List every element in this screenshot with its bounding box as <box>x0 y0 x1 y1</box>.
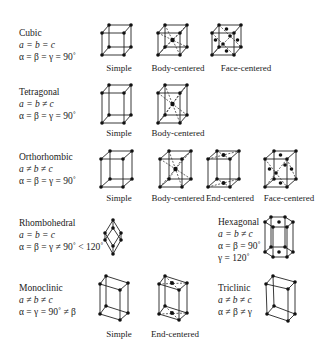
orthorhombic-body-centered-icon <box>158 149 193 191</box>
angles-relation: α = γ = 90˚ ≠ β <box>19 306 76 318</box>
caption: Simple <box>99 63 139 73</box>
angles-relation: α = β = γ = 90˚ <box>19 51 76 63</box>
lengths-relation: a ≠ b ≠ c <box>19 163 76 175</box>
lengths-relation: a ≠ b ≠ c <box>218 294 252 306</box>
caption: End-centered <box>200 193 260 203</box>
system-name: Tetragonal <box>19 86 76 98</box>
rhombohedral-icon <box>103 218 123 260</box>
angles-relation-2: γ = 120˚ <box>218 252 261 264</box>
system-name: Triclinic <box>218 282 252 294</box>
caption: Body-centered <box>143 128 213 138</box>
triclinic-icon <box>264 274 298 326</box>
monoclinic-end-centered-icon <box>157 274 191 326</box>
caption: Simple <box>99 128 139 138</box>
angles-relation: α = β = γ = 90˚ <box>19 110 76 122</box>
cubic-simple-icon <box>100 22 135 57</box>
tetragonal-label: Tetragonal a = b ≠ c α = β = γ = 90˚ <box>19 86 76 122</box>
system-name: Hexagonal <box>218 216 261 228</box>
cubic-face-centered-icon <box>210 22 245 57</box>
system-name: Orthorhombic <box>19 151 76 163</box>
caption: Face-centered <box>254 193 321 203</box>
tetragonal-body-centered-icon <box>156 83 191 125</box>
cubic-label: Cubic a = b = c α = β = γ = 90˚ <box>19 27 76 63</box>
system-name: Monoclinic <box>19 282 76 294</box>
cubic-body-centered-icon <box>156 22 191 57</box>
hexagonal-label: Hexagonal a = b ≠ c α = β = 90˚ γ = 120˚ <box>218 216 261 264</box>
rhombohedral-label: Rhombohedral a = b = c α = β = γ ≠ 90˚ <… <box>19 217 103 253</box>
caption: End-centered <box>145 329 205 339</box>
orthorhombic-simple-icon <box>99 149 134 191</box>
triclinic-label: Triclinic a ≠ b ≠ c α ≠ β ≠ γ <box>218 282 252 318</box>
orthorhombic-label: Orthorhombic a ≠ b ≠ c α = β = γ = 90˚ <box>19 151 76 187</box>
caption: Simple <box>99 329 139 339</box>
lengths-relation: a = b = c <box>19 229 103 241</box>
system-name: Cubic <box>19 27 76 39</box>
tetragonal-simple-icon <box>100 83 135 125</box>
caption: Face-centered <box>211 63 281 73</box>
lengths-relation: a ≠ b ≠ c <box>19 294 76 306</box>
angles-relation: α ≠ β ≠ γ <box>218 306 252 318</box>
lengths-relation: a = b = c <box>19 39 76 51</box>
angles-relation: α = β = γ ≠ 90˚ < 120˚ <box>19 241 103 253</box>
system-name: Rhombohedral <box>19 217 103 229</box>
hexagonal-icon <box>263 214 297 264</box>
orthorhombic-face-centered-icon <box>263 149 298 191</box>
monoclinic-label: Monoclinic a ≠ b ≠ c α = γ = 90˚ ≠ β <box>19 282 76 318</box>
angles-relation: α = β = 90˚ <box>218 240 261 252</box>
orthorhombic-end-centered-icon <box>206 149 241 191</box>
caption: Body-centered <box>143 63 213 73</box>
caption: Simple <box>99 193 139 203</box>
angles-relation: α = β = γ = 90˚ <box>19 175 76 187</box>
monoclinic-simple-icon <box>98 274 132 326</box>
lengths-relation: a = b ≠ c <box>19 98 76 110</box>
lengths-relation: a = b ≠ c <box>218 228 261 240</box>
